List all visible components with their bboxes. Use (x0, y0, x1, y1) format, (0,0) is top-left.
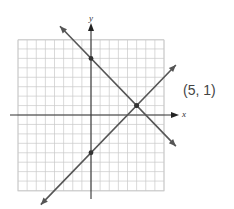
marked-point (134, 103, 139, 108)
y-axis-label: y (89, 13, 93, 23)
x-axis-label: x (182, 109, 186, 119)
coordinate-graph (0, 0, 234, 209)
marked-point (89, 56, 94, 61)
y-axis-arrow-icon (88, 23, 94, 31)
increasing-line (41, 65, 176, 205)
solution-label: (5, 1) (183, 82, 216, 98)
marked-point (89, 150, 94, 155)
x-axis-arrow-icon (171, 112, 179, 118)
decreasing-line (60, 26, 176, 146)
